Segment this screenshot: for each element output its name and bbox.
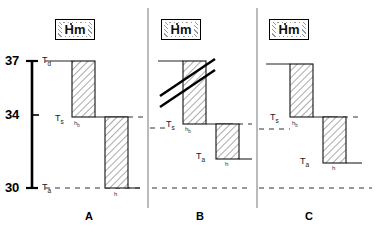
label-ta-a: Ta: [42, 182, 51, 194]
hm-dot-c: [284, 23, 286, 25]
figure-canvas: 37 34 30 Hm Td Ts Ta hb h A Hm Ts Ta hb …: [0, 0, 378, 234]
label-ts-b: Ts: [166, 119, 175, 131]
bar-hb-a: [72, 61, 95, 117]
bar-h-a: [105, 117, 128, 188]
panel-letter-c: C: [305, 210, 313, 222]
hm-label-c: Hm: [276, 23, 303, 36]
hm-dot-a: [70, 23, 72, 25]
panel-letter-b: B: [196, 210, 204, 222]
label-ts-a: Ts: [55, 113, 64, 125]
label-ta-b: Ta: [196, 151, 205, 163]
hm-label-b: Hm: [168, 23, 195, 36]
label-ta-c: Ta: [300, 156, 309, 168]
bar-h-b: [216, 124, 239, 159]
axis-tick-34: 34: [5, 107, 19, 122]
label-hb-b: hb: [185, 126, 191, 134]
hm-box-b: Hm: [161, 19, 201, 40]
label-h-c: h: [332, 165, 335, 171]
bar-hb-b: [183, 61, 206, 124]
label-h-a: h: [114, 191, 117, 197]
label-td-a: Td: [42, 55, 51, 67]
panel-a-graphics: [26, 61, 145, 188]
hm-box-c: Hm: [269, 19, 309, 40]
hm-box-a: Hm: [55, 19, 95, 40]
label-hb-c: hb: [292, 120, 298, 128]
bar-h-c: [323, 117, 346, 163]
bar-hb-c: [290, 64, 313, 117]
panel-c-graphics: [259, 64, 372, 188]
label-hb-a: hb: [74, 120, 80, 128]
label-h-b: h: [225, 161, 228, 167]
panel-letter-a: A: [85, 210, 93, 222]
hm-dot-b: [176, 23, 178, 25]
axis-tick-30: 30: [5, 180, 19, 195]
hm-label-a: Hm: [62, 23, 89, 36]
axis-tick-37: 37: [5, 53, 19, 68]
label-ts-c: Ts: [270, 112, 279, 124]
